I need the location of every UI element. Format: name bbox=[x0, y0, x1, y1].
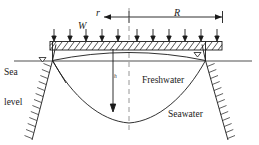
right-shoreline bbox=[202, 42, 235, 141]
recharge-label: W bbox=[78, 21, 86, 32]
freshwater-label: Freshwater bbox=[142, 76, 184, 86]
sea-level-label-line2: level bbox=[4, 98, 22, 108]
left-shoreline bbox=[25, 42, 67, 141]
land-surface-band bbox=[50, 42, 222, 51]
sea-level-label: Sea level bbox=[4, 48, 22, 128]
water-table-symbol-right bbox=[194, 53, 201, 58]
head-depth-arrow bbox=[110, 49, 115, 112]
outer-radius-label: R bbox=[174, 8, 180, 19]
dimension-r bbox=[104, 11, 129, 23]
head-label: h bbox=[114, 74, 117, 80]
inner-radius-label: r bbox=[96, 8, 100, 19]
seawater-label: Seawater bbox=[168, 110, 203, 120]
diagram-canvas bbox=[0, 0, 259, 145]
hydrogeology-cross-section-figure: Sea level W r R h Freshwater Seawater bbox=[0, 0, 259, 145]
recharge-arrows bbox=[52, 29, 219, 41]
sea-level-label-line1: Sea bbox=[4, 68, 22, 78]
